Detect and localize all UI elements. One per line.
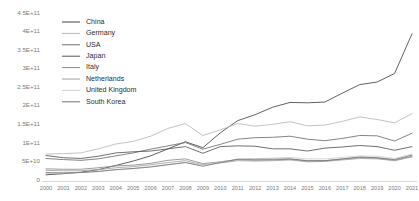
x-tick-label: 2008 — [179, 185, 191, 191]
x-tick-label: 2001 — [57, 185, 69, 191]
legend-label: USA — [86, 41, 101, 49]
legend-label: China — [86, 18, 105, 26]
line-chart: 4.5E+114E+113.5E+113E+112.5E+112E+111.5E… — [0, 0, 419, 201]
chart-legend: ChinaGermanyUSAJapanItalyNetherlandsUnit… — [62, 18, 137, 106]
y-tick-label: 4E+11 — [22, 27, 40, 34]
y-tick-label: 3.5E+11 — [17, 46, 40, 53]
legend-item-south-korea[interactable]: South Korea — [62, 98, 125, 106]
x-tick-label: 2014 — [284, 185, 296, 191]
legend-label: Italy — [86, 63, 99, 71]
y-tick-label: 1E+11 — [22, 139, 40, 146]
x-tick-label: 2005 — [127, 185, 139, 191]
y-tick-label: 5E+10 — [22, 157, 41, 164]
legend-item-italy[interactable]: Italy — [62, 63, 99, 71]
legend-item-netherlands[interactable]: Netherlands — [62, 75, 125, 83]
x-tick-label: 2011 — [232, 185, 244, 191]
legend-item-japan[interactable]: Japan — [62, 52, 105, 60]
x-tick-label: 2015 — [301, 185, 313, 191]
y-axis-tick-labels: 4.5E+114E+113.5E+113E+112.5E+112E+111.5E… — [17, 9, 40, 183]
x-tick-label: 2003 — [92, 185, 104, 191]
y-tick-label: 4.5E+11 — [17, 9, 40, 16]
x-tick-label: 2002 — [75, 185, 87, 191]
legend-item-china[interactable]: China — [62, 18, 105, 26]
x-tick-label: 2016 — [319, 185, 331, 191]
y-tick-label: 1.5E+11 — [17, 120, 40, 127]
y-tick-label: 3E+11 — [22, 64, 40, 71]
x-tick-label: 2019 — [371, 185, 383, 191]
y-tick-label: 2.5E+11 — [17, 83, 40, 90]
legend-label: United Kingdom — [86, 86, 137, 94]
legend-label: South Korea — [86, 98, 125, 106]
x-tick-label: 2013 — [266, 185, 278, 191]
x-tick-label: 2021 — [406, 185, 418, 191]
x-tick-label: 2007 — [162, 185, 174, 191]
y-tick-label: 0 — [37, 176, 41, 183]
x-tick-label: 2009 — [197, 185, 209, 191]
x-tick-label: 2000 — [40, 185, 52, 191]
series-line-japan — [46, 145, 412, 158]
y-tick-label: 2E+11 — [22, 101, 40, 108]
x-tick-label: 2006 — [144, 185, 156, 191]
legend-label: Japan — [86, 52, 105, 60]
legend-label: Germany — [86, 29, 116, 37]
x-tick-label: 2018 — [353, 185, 365, 191]
x-axis-tick-labels: 2000200120022003200420052006200720082009… — [40, 185, 418, 191]
legend-item-usa[interactable]: USA — [62, 41, 101, 49]
legend-item-germany[interactable]: Germany — [62, 29, 116, 37]
series-line-germany — [46, 114, 412, 154]
legend-label: Netherlands — [86, 75, 125, 83]
x-tick-label: 2010 — [214, 185, 226, 191]
x-tick-label: 2020 — [388, 185, 400, 191]
x-tick-label: 2017 — [336, 185, 348, 191]
legend-item-united-kingdom[interactable]: United Kingdom — [62, 86, 137, 94]
chart-canvas: 4.5E+114E+113.5E+113E+112.5E+112E+111.5E… — [0, 0, 419, 201]
x-tick-label: 2012 — [249, 185, 261, 191]
x-tick-label: 2004 — [109, 185, 121, 191]
